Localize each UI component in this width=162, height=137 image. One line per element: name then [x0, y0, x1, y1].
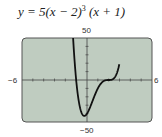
plot-area [0, 0, 162, 137]
